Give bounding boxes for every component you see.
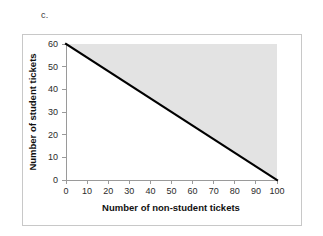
x-tick-label: 20 <box>103 186 113 196</box>
x-axis-title: Number of non-student tickets <box>102 202 240 213</box>
x-axis-ticks: 0 10 20 30 40 50 60 70 80 90 100 <box>63 180 284 196</box>
x-tick-label: 10 <box>82 186 92 196</box>
y-axis-ticks: 0 10 20 30 40 50 60 <box>48 39 66 185</box>
x-tick-label: 90 <box>251 186 261 196</box>
x-tick-label: 80 <box>230 186 240 196</box>
y-tick-label: 10 <box>48 152 58 162</box>
x-tick-label: 30 <box>124 186 134 196</box>
x-tick-label: 60 <box>188 186 198 196</box>
x-tick-label: 0 <box>63 186 68 196</box>
y-tick-label: 0 <box>53 175 58 185</box>
y-axis-title: Number of student tickets <box>27 53 38 170</box>
y-tick-label: 20 <box>48 130 58 140</box>
chart-plot: 0 10 20 30 40 50 60 0 10 20 30 40 <box>0 0 323 236</box>
x-tick-label: 40 <box>145 186 155 196</box>
y-tick-label: 40 <box>48 84 58 94</box>
figure-root: c. 0 10 20 30 40 50 60 <box>0 0 323 236</box>
y-tick-label: 50 <box>48 62 58 72</box>
y-tick-label: 60 <box>48 39 58 49</box>
x-tick-label: 50 <box>166 186 176 196</box>
x-tick-label: 70 <box>209 186 219 196</box>
y-tick-label: 30 <box>48 107 58 117</box>
x-tick-label: 100 <box>269 186 284 196</box>
